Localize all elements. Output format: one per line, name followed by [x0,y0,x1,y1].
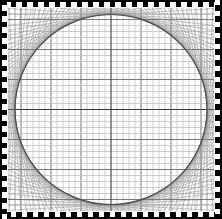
border-left [0,0,7,219]
plot-area [8,8,214,211]
string-art-figure [0,0,222,219]
border-bottom [0,212,222,219]
inscribed-circle-layer [8,8,214,211]
border-right [215,0,222,219]
border-top [0,0,222,7]
